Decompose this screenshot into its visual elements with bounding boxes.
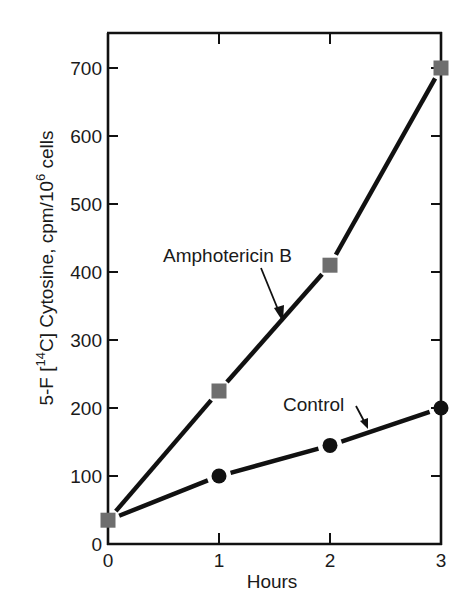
y-tick-label: 200 xyxy=(70,398,102,419)
y-axis-title-sup1: 14 xyxy=(33,352,48,366)
y-tick-label: 400 xyxy=(70,262,102,283)
y-axis-title-middle: C] Cytosine, cpm/10 xyxy=(36,181,57,352)
x-tick-label: 2 xyxy=(325,550,336,571)
y-axis-title-sup2: 6 xyxy=(33,174,48,181)
series-line-segment xyxy=(227,274,322,382)
y-tick-label: 100 xyxy=(70,466,102,487)
series-line-segment xyxy=(336,78,435,254)
annotation-control-arrow xyxy=(356,406,364,421)
y-axis-title: 5-F [14C] Cytosine, cpm/106 cells xyxy=(33,130,57,405)
arrowhead-icon xyxy=(360,418,368,429)
annotation-amphotericin-b: Amphotericin B xyxy=(163,245,292,322)
series-line-segment xyxy=(231,449,319,473)
annotation-amphotericin-b-label: Amphotericin B xyxy=(163,245,292,266)
y-tick-label: 0 xyxy=(91,534,102,555)
annotation-amphotericin-b-arrow xyxy=(261,268,279,312)
plot-frame xyxy=(107,32,442,545)
series-line-segment xyxy=(341,412,429,442)
arrowhead-icon xyxy=(274,305,284,322)
y-tick-label: 600 xyxy=(70,126,102,147)
line-chart: 0100200300400500600700 0123 Hours 5-F [1… xyxy=(0,0,473,614)
series-amphotericin-b xyxy=(101,61,449,528)
series-control xyxy=(119,401,448,516)
y-axis-ticks: 0100200300400500600700 xyxy=(70,58,441,555)
x-axis-title: Hours xyxy=(247,571,298,592)
circle-marker-icon xyxy=(323,438,338,453)
circle-marker-icon xyxy=(434,401,449,416)
x-tick-label: 0 xyxy=(103,550,114,571)
square-marker-icon xyxy=(101,513,116,528)
y-tick-label: 500 xyxy=(70,194,102,215)
square-marker-icon xyxy=(434,61,449,76)
annotation-control: Control xyxy=(283,394,368,429)
x-tick-label: 3 xyxy=(436,550,447,571)
series-layer xyxy=(101,61,449,528)
series-line-segment xyxy=(119,480,208,515)
square-marker-icon xyxy=(323,258,338,273)
y-tick-label: 700 xyxy=(70,58,102,79)
square-marker-icon xyxy=(212,384,227,399)
annotation-control-label: Control xyxy=(283,394,344,415)
y-tick-label: 300 xyxy=(70,330,102,351)
y-axis-title-suffix: cells xyxy=(36,130,57,173)
x-tick-label: 1 xyxy=(214,550,225,571)
y-axis-title-prefix: 5-F [ xyxy=(36,366,57,406)
circle-marker-icon xyxy=(212,469,227,484)
series-line-segment xyxy=(116,400,211,511)
